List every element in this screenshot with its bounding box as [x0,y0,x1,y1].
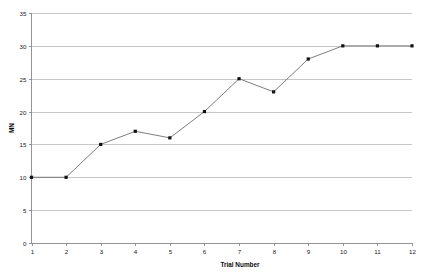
data-point-marker [64,176,67,179]
data-point-marker [376,44,379,47]
data-point-marker [99,143,102,146]
y-tick-label: 0 [23,240,27,247]
y-axis-title: MN [8,123,15,133]
y-tick-label: 10 [20,174,27,181]
x-axis-title: Trial Number [220,261,260,268]
data-point-marker [341,44,344,47]
data-point-marker [272,90,275,93]
line-chart: 05101520253035 123456789101112 Trial Num… [0,0,428,279]
chart-canvas: 05101520253035 123456789101112 Trial Num… [0,0,428,279]
y-tick-label: 15 [20,141,27,148]
y-tick-label: 35 [20,10,27,17]
x-tick-label: 8 [273,248,277,255]
data-point-marker [30,176,33,179]
x-tick-label: 11 [374,248,381,255]
x-tick-label: 5 [169,248,173,255]
data-point-marker [203,110,206,113]
x-tick-label: 4 [134,248,138,255]
data-point-marker [307,57,310,60]
data-point-marker [237,77,240,80]
data-point-marker [168,136,171,139]
x-tick-label: 10 [340,248,347,255]
x-tick-label: 2 [65,248,69,255]
x-tick-label: 1 [31,248,35,255]
x-tick-label: 9 [307,248,311,255]
y-tick-label: 5 [23,207,27,214]
data-point-marker [134,130,137,133]
x-tick-label: 12 [409,248,416,255]
x-tick-label: 3 [100,248,104,255]
y-tick-label: 30 [20,43,27,50]
x-tick-label: 6 [203,248,207,255]
y-tick-label: 25 [20,76,27,83]
data-point-marker [410,44,413,47]
y-tick-label: 20 [20,109,27,116]
chart-background [0,0,428,279]
x-tick-label: 7 [238,248,242,255]
